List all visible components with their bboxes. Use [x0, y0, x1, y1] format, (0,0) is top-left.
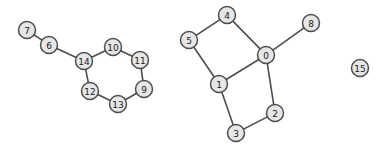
graph-node-label-8: 8: [308, 19, 314, 29]
graph-edge-3-2: [244, 117, 268, 129]
graph-node-label-14: 14: [78, 57, 90, 67]
graph-node-15[interactable]: 15: [352, 60, 369, 77]
graph-node-11[interactable]: 11: [132, 52, 149, 69]
graph-node-label-10: 10: [107, 43, 119, 53]
graph-node-14[interactable]: 14: [76, 53, 93, 70]
graph-edge-14-10: [92, 51, 106, 58]
graph-edge-4-0: [233, 21, 260, 49]
graph-node-7[interactable]: 7: [19, 22, 36, 39]
graph-node-label-12: 12: [84, 87, 95, 97]
graph-edge-9-13: [125, 93, 136, 100]
graph-node-label-13: 13: [112, 100, 123, 110]
graph-node-12[interactable]: 12: [82, 83, 99, 100]
graph-edge-5-1: [194, 47, 214, 77]
graph-node-1[interactable]: 1: [211, 76, 228, 93]
graph-node-10[interactable]: 10: [105, 39, 122, 56]
graph-node-label-5: 5: [186, 36, 192, 46]
graph-node-label-4: 4: [224, 11, 230, 21]
graph-edge-1-0: [226, 59, 259, 79]
graph-node-13[interactable]: 13: [110, 96, 127, 113]
graph-node-label-11: 11: [134, 56, 145, 66]
graph-edge-0-2: [267, 63, 273, 104]
graph-edge-4-5: [196, 20, 220, 36]
graph-node-label-6: 6: [46, 41, 52, 51]
graph-edge-0-8: [273, 28, 304, 50]
edges-layer: [34, 20, 304, 129]
graph-edge-13-12: [98, 95, 111, 101]
graph-node-label-1: 1: [216, 80, 222, 90]
graph-node-8[interactable]: 8: [303, 15, 320, 32]
graph-edge-11-9: [141, 68, 143, 80]
graph-diagram: 0123456789101112131415: [0, 0, 382, 152]
graph-node-label-7: 7: [24, 26, 30, 36]
graph-node-label-0: 0: [263, 51, 269, 61]
graph-node-label-9: 9: [141, 85, 147, 95]
graph-edge-1-3: [222, 92, 233, 125]
graph-node-6[interactable]: 6: [41, 37, 58, 54]
graph-node-2[interactable]: 2: [267, 105, 284, 122]
graph-edge-7-6: [34, 35, 42, 40]
nodes-layer: 0123456789101112131415: [19, 7, 369, 142]
graph-node-3[interactable]: 3: [228, 125, 245, 142]
graph-edge-12-14: [86, 69, 89, 82]
graph-node-label-3: 3: [233, 129, 239, 139]
graph-node-0[interactable]: 0: [258, 47, 275, 64]
graph-node-4[interactable]: 4: [219, 7, 236, 24]
graph-edge-10-11: [121, 51, 133, 57]
graph-node-label-2: 2: [272, 109, 278, 119]
graph-node-label-15: 15: [354, 64, 365, 74]
graph-edge-6-14: [57, 49, 77, 58]
graph-node-9[interactable]: 9: [136, 81, 153, 98]
graph-node-5[interactable]: 5: [181, 32, 198, 49]
graph-canvas: 0123456789101112131415: [0, 0, 382, 152]
